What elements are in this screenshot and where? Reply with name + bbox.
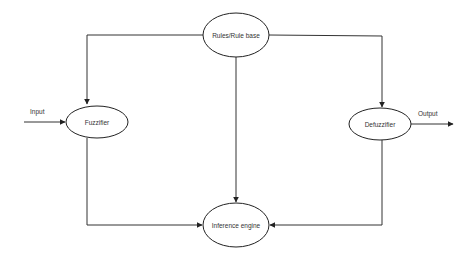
inference-label: Inference engine <box>212 222 261 230</box>
rules-label: Rules/Rule base <box>212 32 260 39</box>
input-label: Input <box>30 108 45 116</box>
edge-rules-to-fuzzifier <box>87 35 203 104</box>
node-fuzzifier: Fuzzifier <box>66 106 128 138</box>
node-inference: Inference engine <box>203 203 269 247</box>
defuzzifier-label: Defuzzifier <box>365 121 397 128</box>
edge-defuzzifier-to-inference <box>270 140 382 225</box>
node-rules: Rules/Rule base <box>203 13 269 57</box>
edge-fuzzifier-to-inference <box>87 138 202 225</box>
edge-rules-to-defuzzifier <box>269 35 382 107</box>
fuzzifier-label: Fuzzifier <box>85 119 110 126</box>
fuzzy-logic-diagram: Rules/Rule base Fuzzifier Defuzzifier In… <box>0 0 476 258</box>
output-label: Output <box>418 110 438 118</box>
node-defuzzifier: Defuzzifier <box>349 108 411 140</box>
